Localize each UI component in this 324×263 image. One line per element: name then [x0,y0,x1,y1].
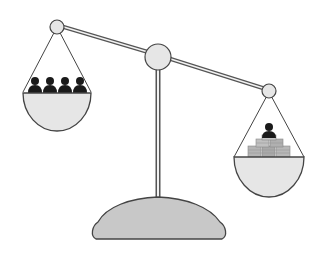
right-pan [234,157,304,197]
left-pan [23,93,91,131]
left-pivot [50,20,64,34]
scale-base [92,197,225,239]
people-group-icon [28,77,87,93]
balance-scale-illustration [0,0,324,263]
person-icon [262,123,276,138]
coin-stack-icon [248,135,290,157]
scale-post [156,68,161,200]
right-pivot [262,84,276,98]
center-pivot [145,44,171,70]
